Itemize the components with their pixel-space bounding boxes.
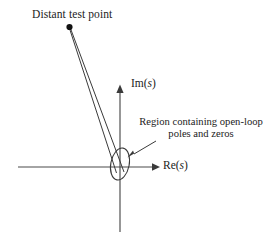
test-point-vectors [70, 29, 125, 174]
im-axis-label-prefix: Im( [131, 77, 148, 89]
real-axis-label: Re(s) [163, 160, 188, 171]
region-annotation-text: Region containing open-looppoles and zer… [133, 116, 269, 139]
re-axis-label-prefix: Re( [163, 159, 180, 171]
distant-test-point-marker [66, 24, 72, 30]
region-annotation-arrow [128, 141, 157, 158]
distant-test-point-label: Distant test point [32, 9, 112, 20]
vector-to-pole-2 [71, 29, 125, 173]
re-axis-label-suffix: ) [184, 159, 188, 171]
im-axis-label-suffix: ) [152, 77, 156, 89]
figure-canvas: Distant test point Im(s) Re(s) Region co… [0, 0, 272, 242]
real-axis [18, 163, 160, 171]
real-axis-arrowhead [152, 163, 160, 171]
imaginary-axis-arrowhead [116, 85, 123, 94]
imaginary-axis [116, 85, 123, 233]
vector-to-pole-1 [70, 29, 117, 174]
imaginary-axis-label: Im(s) [131, 78, 156, 89]
region-annotation-arrow-line [134, 141, 156, 154]
region-annotation-line-1: Region containing open-loop [139, 116, 263, 127]
region-annotation-line-2: poles and zeros [168, 128, 233, 139]
